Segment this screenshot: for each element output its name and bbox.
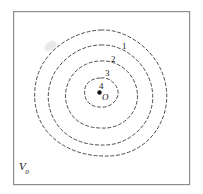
- field-region-label: V0: [19, 161, 29, 175]
- contour-label-4: 4: [99, 82, 104, 91]
- contour-label-1: 1: [122, 42, 127, 51]
- contour-label-3: 3: [105, 69, 110, 78]
- origin-label: O: [102, 93, 109, 102]
- contour-label-2: 2: [111, 55, 116, 64]
- figure-container: 1 2 3 4 O V0: [0, 0, 203, 194]
- contour-path-2: [48, 45, 153, 145]
- field-label-subscript: 0: [25, 168, 29, 176]
